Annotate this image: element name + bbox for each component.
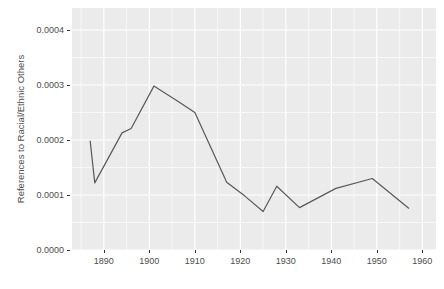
x-tick-label: 1960 — [402, 256, 442, 267]
x-tick-mark — [331, 250, 332, 253]
x-tick-mark — [240, 250, 241, 253]
x-tick-label: 1950 — [357, 256, 397, 267]
x-tick-label: 1910 — [175, 256, 215, 267]
x-tick-label: 1920 — [220, 256, 260, 267]
x-tick-label: 1940 — [311, 256, 351, 267]
x-tick-label: 1930 — [266, 256, 306, 267]
x-tick-label: 1890 — [84, 256, 124, 267]
chart-figure: References to Racial/Ethnic Others 0.000… — [0, 0, 444, 289]
x-tick-mark — [195, 250, 196, 253]
x-tick-mark — [104, 250, 105, 253]
x-tick-mark — [286, 250, 287, 253]
x-tick-mark — [149, 250, 150, 253]
x-tick-mark — [377, 250, 378, 253]
x-tick-mark — [422, 250, 423, 253]
x-tick-label: 1900 — [129, 256, 169, 267]
x-axis-ticks: 18901900191019201930194019501960 — [0, 0, 444, 289]
